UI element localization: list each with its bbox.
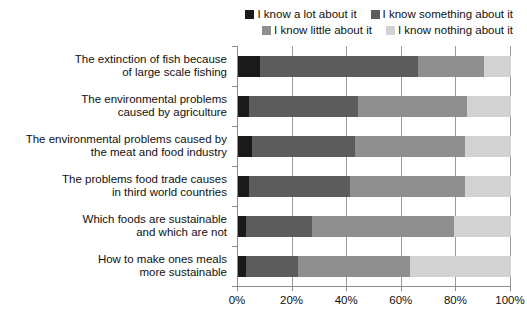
y-axis-label-0: The extinction of fish because of large … bbox=[8, 46, 234, 86]
y-axis-label-3-line1: The problems food trade causes bbox=[62, 173, 227, 187]
legend-row-1: I know a lot about it I know something a… bbox=[245, 8, 513, 21]
legend-swatch-know-a-lot bbox=[245, 10, 254, 19]
bar-segment bbox=[465, 176, 511, 197]
y-axis-label-2-line1: The environmental problems caused by bbox=[26, 133, 227, 147]
x-tick-0% bbox=[237, 287, 238, 291]
bar-segment bbox=[312, 216, 454, 237]
bar-segment bbox=[252, 136, 356, 157]
legend-label-know-a-lot: I know a lot about it bbox=[257, 8, 356, 21]
bar-row bbox=[238, 216, 511, 237]
x-tick-100% bbox=[510, 287, 511, 291]
legend-item-know-something: I know something about it bbox=[371, 8, 513, 21]
bar-segment bbox=[454, 216, 511, 237]
bar-segment bbox=[238, 256, 246, 277]
x-tick-80% bbox=[455, 287, 456, 291]
bar-segment bbox=[355, 136, 464, 157]
x-tick-60% bbox=[401, 287, 402, 291]
y-tick-6 bbox=[232, 286, 237, 287]
y-axis-label-3-line2: in third world countries bbox=[62, 186, 227, 200]
legend-item-know-a-lot: I know a lot about it bbox=[245, 8, 356, 21]
x-axis-label-100%: 100% bbox=[495, 293, 524, 307]
y-axis-label-3: The problems food trade causes in third … bbox=[8, 166, 234, 206]
bar-segment bbox=[465, 136, 511, 157]
y-axis-label-0-line1: The extinction of fish because bbox=[75, 53, 227, 67]
bar-series-container bbox=[237, 46, 510, 286]
bar-segment bbox=[484, 56, 511, 77]
legend-label-know-little: I know little about it bbox=[274, 24, 372, 37]
legend-label-know-something: I know something about it bbox=[383, 8, 513, 21]
x-tick-40% bbox=[346, 287, 347, 291]
y-axis-category-labels: The extinction of fish because of large … bbox=[8, 46, 234, 286]
y-axis-label-2: The environmental problems caused by the… bbox=[8, 126, 234, 166]
bar-segment bbox=[467, 96, 511, 117]
bar-segment bbox=[298, 256, 410, 277]
bar-segment bbox=[246, 256, 298, 277]
y-axis-label-0-line2: of large scale fishing bbox=[75, 66, 227, 80]
bar-segment bbox=[238, 176, 249, 197]
y-axis-label-1: The environmental problems caused by agr… bbox=[8, 86, 234, 126]
y-axis-label-5-line1: How to make ones meals bbox=[98, 253, 227, 267]
bar-segment bbox=[249, 176, 350, 197]
bar-segment bbox=[238, 96, 249, 117]
bar-segment bbox=[260, 56, 418, 77]
legend-label-know-nothing: I know nothing about it bbox=[398, 24, 513, 37]
plot-area bbox=[237, 46, 510, 286]
gridline-100% bbox=[510, 46, 511, 286]
y-axis-label-4: Which foods are sustainable and which ar… bbox=[8, 206, 234, 246]
y-axis-label-2-line2: the meat and food industry bbox=[26, 146, 227, 160]
x-axis-tick-labels: 0%20%40%60%80%100% bbox=[237, 293, 510, 309]
plot-wrapper: The extinction of fish because of large … bbox=[0, 46, 527, 319]
legend-swatch-know-nothing bbox=[386, 26, 395, 35]
bar-segment bbox=[238, 216, 246, 237]
legend-swatch-know-something bbox=[371, 10, 380, 19]
legend-item-know-little: I know little about it bbox=[262, 24, 372, 37]
y-axis-label-5: How to make ones meals more sustainable bbox=[8, 246, 234, 286]
legend-item-know-nothing: I know nothing about it bbox=[386, 24, 513, 37]
y-axis-label-5-line2: more sustainable bbox=[98, 266, 227, 280]
x-axis-line bbox=[237, 286, 511, 287]
chart-legend: I know a lot about it I know something a… bbox=[0, 8, 527, 37]
bar-row bbox=[238, 56, 511, 77]
bar-segment bbox=[249, 96, 358, 117]
bar-segment bbox=[418, 56, 484, 77]
bar-segment bbox=[410, 256, 511, 277]
bar-row bbox=[238, 136, 511, 157]
x-axis-label-20%: 20% bbox=[280, 293, 303, 307]
bar-segment bbox=[358, 96, 467, 117]
x-axis-label-60%: 60% bbox=[389, 293, 412, 307]
legend-row-2: I know little about it I know nothing ab… bbox=[262, 24, 513, 37]
y-axis-label-4-line1: Which foods are sustainable bbox=[83, 213, 227, 227]
bar-row bbox=[238, 176, 511, 197]
stacked-bar-chart: I know a lot about it I know something a… bbox=[0, 0, 527, 319]
y-axis-label-1-line2: caused by agriculture bbox=[81, 106, 227, 120]
bar-segment bbox=[246, 216, 312, 237]
y-axis-label-4-line2: and which are not bbox=[83, 226, 227, 240]
bar-row bbox=[238, 96, 511, 117]
bar-segment bbox=[238, 136, 252, 157]
x-tick-20% bbox=[292, 287, 293, 291]
bar-segment bbox=[238, 56, 260, 77]
x-axis-label-80%: 80% bbox=[444, 293, 467, 307]
bar-segment bbox=[350, 176, 465, 197]
x-axis-label-40%: 40% bbox=[335, 293, 358, 307]
x-axis-label-0%: 0% bbox=[229, 293, 246, 307]
y-axis-label-1-line1: The environmental problems bbox=[81, 93, 227, 107]
legend-swatch-know-little bbox=[262, 26, 271, 35]
bar-row bbox=[238, 256, 511, 277]
